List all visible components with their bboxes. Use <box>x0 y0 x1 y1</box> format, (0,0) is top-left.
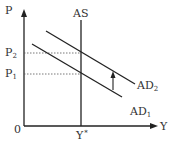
ad2-curve <box>46 31 135 84</box>
shift-arrow-icon <box>111 71 116 90</box>
x-axis-label: Y <box>159 120 168 133</box>
as-label: AS <box>72 7 88 20</box>
p1-label: P1 <box>5 67 17 81</box>
x-axis <box>24 123 158 129</box>
ad1-curve <box>32 44 122 97</box>
y-star-label: Y* <box>75 129 88 142</box>
p2-label: P2 <box>5 46 17 60</box>
y-axis-label: P <box>5 4 13 17</box>
as-ad-diagram: P Y 0 AS P2 P1 AD2 AD1 Y* <box>0 0 170 148</box>
ad2-label: AD2 <box>136 79 158 93</box>
origin-label: 0 <box>14 123 21 136</box>
y-axis-arrow-icon <box>21 9 27 17</box>
x-axis-arrow-icon <box>150 123 158 129</box>
y-axis <box>21 9 27 126</box>
ad1-label: AD1 <box>129 105 151 119</box>
